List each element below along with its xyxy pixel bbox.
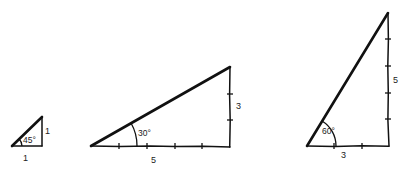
- hypotenuse: [307, 13, 388, 146]
- triangles-diagram: 45° 1 1 30° 3 5: [0, 0, 399, 172]
- vertical-leg-label: 5: [393, 75, 398, 85]
- vertical-leg: [388, 13, 389, 146]
- angle-label: 45°: [23, 135, 36, 145]
- vertical-leg: [230, 67, 231, 147]
- base-label: 3: [341, 150, 346, 160]
- hypotenuse: [91, 67, 230, 146]
- base-leg: [91, 146, 230, 147]
- base-leg: [307, 146, 389, 147]
- vertical-leg-label: 3: [236, 101, 241, 111]
- vertical-leg-label: 1: [45, 126, 50, 136]
- base-label: 1: [23, 153, 28, 163]
- angle-label: 30°: [138, 128, 151, 138]
- angle-arc: [131, 123, 137, 146]
- triangle-45: 45° 1 1: [12, 117, 50, 163]
- angle-label: 60°: [322, 126, 335, 136]
- angle-arc: [19, 139, 22, 146]
- triangle-30: 30° 3 5: [91, 67, 241, 165]
- base-label: 5: [151, 155, 156, 165]
- triangle-60: 60° 5 3: [307, 13, 398, 160]
